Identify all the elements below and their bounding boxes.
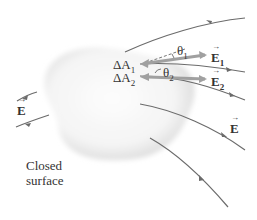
closed-surface-line2: surface [26,173,64,188]
e-left-label: E [17,104,26,117]
e1-text: E [211,51,220,64]
closed-surface-line1: Closed [26,158,64,173]
theta2-sub: 2 [169,73,174,83]
gauss-law-diagram: ΔA1 ΔA2 θ1 θ2 E1 E2 E E Closed surface [0,0,257,220]
delta-a2-sub: 2 [131,78,136,88]
theta2-label: θ2 [163,66,174,83]
e2-sub: 2 [220,82,225,92]
e2-label: E2 [211,75,224,92]
delta-a2-label: ΔA2 [113,71,135,88]
delta-a2-text: ΔA [113,70,131,85]
e-left-text: E [17,104,26,117]
e1-sub: 1 [220,58,225,68]
e2-text: E [211,75,220,88]
e-right-text: E [230,122,239,135]
theta1-label: θ1 [177,44,188,61]
e-right-label: E [230,122,239,135]
theta1-sub: 1 [183,51,188,61]
closed-surface-label: Closed surface [26,158,64,188]
